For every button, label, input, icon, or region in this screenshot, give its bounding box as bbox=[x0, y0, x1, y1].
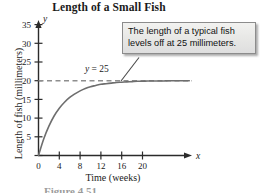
y-axis-title: Length of fish (millimeters) bbox=[13, 34, 24, 174]
x-axis-title: Time (weeks) bbox=[38, 172, 188, 183]
figure-caption: Figure 4.51 bbox=[44, 185, 97, 193]
x-tick-label: 0 bbox=[36, 161, 41, 171]
x-tick-label: 16 bbox=[117, 161, 127, 171]
y-tick-label: 35 bbox=[22, 20, 32, 30]
x-tick-label: 20 bbox=[138, 161, 148, 171]
x-axis-arrow bbox=[184, 152, 192, 158]
x-tick-labels: 0 4 8 12 16 20 bbox=[36, 161, 147, 171]
asymptote-label-value: = 25 bbox=[89, 64, 109, 74]
callout-text: The length of a typical fish levels off … bbox=[128, 26, 251, 49]
x-tick-label: 12 bbox=[96, 161, 105, 171]
figure-container: Length of a Small Fish y x 5 10 15 20 25 bbox=[0, 0, 262, 193]
x-tick-label: 8 bbox=[78, 161, 83, 171]
callout-annotation: The length of a typical fish levels off … bbox=[122, 22, 256, 54]
x-axis-variable-label: x bbox=[195, 151, 201, 161]
callout-leader-line bbox=[121, 58, 139, 82]
data-curve bbox=[39, 81, 190, 156]
y-tick-label: 5 bbox=[27, 132, 32, 142]
asymptote-label: y = 25 bbox=[84, 64, 109, 74]
x-tick-label: 4 bbox=[57, 161, 62, 171]
y-axis-variable-label: y bbox=[42, 14, 48, 24]
